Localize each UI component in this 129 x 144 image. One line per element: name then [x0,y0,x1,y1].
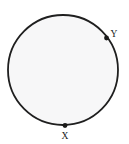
point-marker-y [104,36,109,41]
circle-diagram: Y X [0,0,129,144]
figure-canvas: Y X [0,0,129,144]
point-label-y: Y [111,29,118,39]
circle-outline [8,15,118,125]
point-marker-x [63,123,68,128]
point-label-x: X [62,131,69,141]
